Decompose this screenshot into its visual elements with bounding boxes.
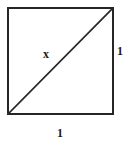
diagonal-label: x: [43, 48, 49, 60]
diagonal-line: [8, 8, 113, 114]
right-side-label: 1: [117, 45, 123, 57]
geometry-figure: x 1 1: [0, 0, 130, 148]
bottom-side-label: 1: [57, 127, 63, 139]
square-with-diagonal-svg: [0, 0, 130, 148]
